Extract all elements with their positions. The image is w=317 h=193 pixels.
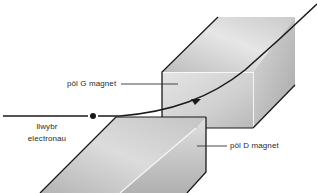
electron-dot <box>90 113 96 119</box>
north-pole-label: pôl G magnet <box>67 79 116 89</box>
electron-path-label: llwybr electronau <box>18 121 76 145</box>
north-pole-magnet-block <box>162 17 295 128</box>
diagram-canvas <box>0 0 317 193</box>
electron-path-label-line1: llwybr <box>18 121 76 133</box>
electron-path-label-line2: electronau <box>18 133 76 145</box>
south-pole-label: pôl D magnet <box>230 141 279 151</box>
magnetic-deflection-diagram: pôl G magnet pôl D magnet llwybr electro… <box>0 0 317 193</box>
